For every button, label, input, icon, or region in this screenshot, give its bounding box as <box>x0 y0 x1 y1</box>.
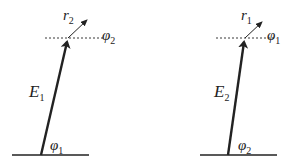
small-vector-label: r2 <box>63 7 74 26</box>
main-vector-label: E1 <box>28 82 44 103</box>
left-panel: r2 φ2 E1 φ1 <box>12 7 115 156</box>
bottom-angle-label: φ2 <box>238 137 251 156</box>
top-angle-label: φ2 <box>102 27 115 46</box>
main-vector-label: E2 <box>213 82 229 103</box>
top-angle-label: φ1 <box>267 27 280 46</box>
small-vector-label: r1 <box>241 7 252 26</box>
right-panel: r1 φ1 E2 φ2 <box>200 7 280 156</box>
vector-diagram: r2 φ2 E1 φ1 r1 φ1 E2 φ2 <box>0 0 294 163</box>
bottom-angle-label: φ1 <box>50 137 63 156</box>
